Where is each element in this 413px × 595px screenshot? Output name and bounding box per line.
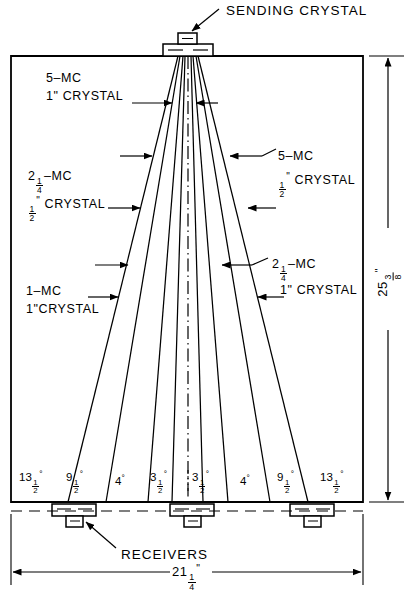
sending-crystal bbox=[163, 33, 213, 56]
angle-label-7: 912° bbox=[277, 470, 294, 495]
sending-crystal-leader bbox=[192, 9, 219, 31]
label-leaders bbox=[88, 103, 284, 297]
angle-label-2: 912° bbox=[66, 470, 83, 495]
width-dimension-label: 2114" bbox=[172, 562, 200, 592]
angle-label-1: 1312° bbox=[19, 470, 42, 495]
label-5mc-1in-crystal: 1" CRYSTAL bbox=[46, 88, 123, 105]
angle-label-5: 312° bbox=[192, 470, 209, 495]
label-2.25mc-1in-freq: 214–MC bbox=[272, 256, 316, 283]
angle-label-6: 4° bbox=[240, 474, 250, 487]
label-2.25mc-half-in-crystal: 12" CRYSTAL bbox=[28, 194, 105, 223]
angle-label-4: 312° bbox=[150, 470, 167, 495]
angle-label-8: 1312° bbox=[320, 470, 343, 495]
figure-canvas: SENDING CRYSTAL 5–MC 1" CRYSTAL 214–MC 1… bbox=[0, 0, 413, 595]
label-5mc-half-in-freq: 5–MC bbox=[278, 148, 314, 165]
sending-crystal-label: SENDING CRYSTAL bbox=[226, 2, 367, 20]
receivers bbox=[52, 504, 334, 527]
angle-label-3: 4° bbox=[115, 474, 125, 487]
label-5mc-half-in-crystal: 12" CRYSTAL bbox=[278, 170, 355, 199]
label-1mc-1in-crystal: 1"CRYSTAL bbox=[26, 301, 99, 318]
receivers-leader bbox=[86, 522, 116, 548]
label-2.25mc-half-in-freq: 214–MC bbox=[28, 168, 72, 195]
label-1mc-1in-freq: 1–MC bbox=[26, 283, 62, 300]
height-dimension-label: 2538" bbox=[374, 256, 403, 308]
label-2.25mc-1in-crystal: 1" CRYSTAL bbox=[280, 282, 357, 299]
label-5mc-1in-freq: 5–MC bbox=[46, 70, 82, 87]
